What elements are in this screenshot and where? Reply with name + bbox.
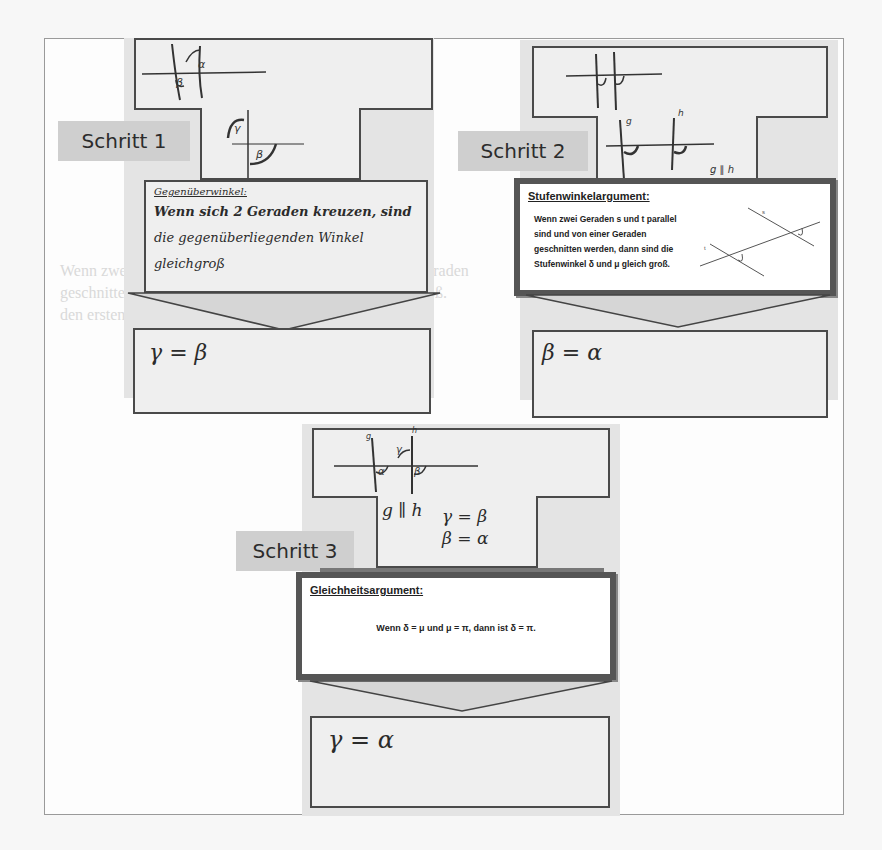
arrow-down-icon (124, 292, 444, 332)
argument-line: Wenn zwei Geraden s und t parallel (534, 212, 677, 227)
angle-label-alpha: α (198, 58, 205, 71)
angle-label-beta: β (414, 466, 420, 477)
argument-title: Gleichheitsargument: (310, 584, 423, 596)
step-3-label: Schritt 3 (236, 531, 354, 571)
vertical-angles-icon (202, 108, 363, 180)
step-1-argument-box: Gegenüberwinkel: Wenn sich 2 Geraden kre… (144, 180, 428, 293)
argument-line: sind und von einer Geraden (534, 227, 677, 242)
step-1-label: Schritt 1 (58, 121, 190, 161)
corresponding-angles-icon (598, 116, 760, 182)
step-3-intermediate-figure: g ∥ h γ = β β = α (376, 496, 538, 568)
premise-gamma-beta: γ = β (442, 506, 487, 526)
result-text: β = α (542, 340, 602, 365)
result-text: γ = β (149, 340, 207, 365)
premise-beta-alpha: β = α (442, 528, 488, 548)
argument-text: Wenn δ = μ und μ = π, dann ist δ = π. (302, 620, 610, 637)
step-2-argument-box: Stufenwinkelargument: Wenn zwei Geraden … (514, 178, 836, 296)
arrow-down-icon (518, 294, 838, 330)
transversal-figure-icon: s t (700, 204, 830, 284)
arrow-down-icon (306, 680, 616, 714)
step-1-premise-figure: α β (134, 38, 433, 110)
argument-line: Stufenwinkel δ und μ gleich groß. (534, 257, 677, 272)
angle-label-beta: β (256, 148, 263, 161)
premise-parallel: g ∥ h (382, 500, 423, 520)
step-2-result-box: β = α (532, 330, 828, 418)
line-label-h: h (412, 426, 417, 435)
line-label-g: g (366, 432, 371, 441)
svg-text:t: t (704, 245, 706, 251)
step-2-label: Schritt 2 (458, 131, 588, 171)
step-3-premise-figure: g h γ α β (312, 428, 610, 498)
line-label-g: g (626, 116, 632, 126)
step-1-intermediate-figure: γ β (200, 108, 361, 180)
angle-label-gamma: γ (396, 444, 402, 455)
angle-label-gamma: γ (234, 122, 241, 135)
line-label-h: h (678, 108, 684, 118)
step-2-intermediate-figure: g h g ∥ h (596, 116, 758, 182)
argument-line: gleichgroß (154, 256, 225, 271)
angle-label-alpha: α (378, 466, 385, 477)
argument-text: Wenn zwei Geraden s und t parallel sind … (534, 212, 677, 272)
argument-title: Gegenüberwinkel: (154, 186, 247, 197)
parallel-annotation: g ∥ h (710, 164, 734, 175)
svg-text:s: s (762, 209, 765, 215)
argument-title: Stufenwinkelargument: (528, 190, 650, 202)
step-3-result-box: γ = α (310, 716, 610, 808)
argument-line: geschnitten werden, dann sind die (534, 242, 677, 257)
step-3-argument-box: Gleichheitsargument: Wenn δ = μ und μ = … (296, 572, 616, 680)
result-text: γ = α (328, 726, 394, 754)
step-1-result-box: γ = β (133, 328, 431, 414)
argument-line: die gegenüberliegenden Winkel (154, 230, 364, 245)
angle-label-beta: β (176, 76, 183, 89)
argument-line: Wenn sich 2 Geraden kreuzen, sind (154, 204, 411, 219)
parallel-crossing-icon (314, 430, 612, 500)
